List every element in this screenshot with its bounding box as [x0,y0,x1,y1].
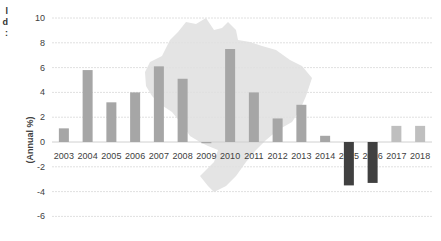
bar-2005 [106,102,116,142]
bar-chart: 1086420-2-4-6 20032004200520062007200820… [0,0,441,241]
bar-2008 [178,79,188,142]
y-tick-label: 4 [40,87,45,97]
y-tick-label: -4 [37,187,45,197]
bar-2006 [130,92,140,142]
x-tick-label: 2010 [220,151,240,161]
bar-2007 [154,66,164,142]
bar-2010 [225,49,235,142]
bar-2018 [415,126,425,142]
bar-2009 [201,142,211,143]
x-tick-label: 2006 [125,151,145,161]
x-tick-label: 2011 [244,151,263,161]
bar-2003 [59,128,69,142]
y-tick-label: 0 [40,137,45,147]
x-tick-label: 2012 [268,151,288,161]
x-tick-label: 2018 [410,151,430,161]
x-tick-label: 2017 [386,151,406,161]
bar-2011 [249,92,259,142]
bar-2016 [368,142,378,183]
y-axis-ticks: 1086420-2-4-6 [35,13,45,221]
x-tick-label: 2004 [78,151,98,161]
bar-2015 [344,142,354,185]
bar-2004 [83,70,93,142]
bar-2014 [320,136,330,142]
y-tick-label: 6 [40,63,45,73]
bar-2017 [391,126,401,142]
x-tick-label: 2007 [149,151,169,161]
y-tick-label: 10 [35,13,45,23]
y-tick-label: 8 [40,38,45,48]
bar-2012 [273,118,283,142]
x-tick-label: 2009 [196,151,216,161]
x-tick-label: 2008 [173,151,193,161]
y-axis-label: (Annual %) [25,117,35,164]
y-tick-label: -2 [37,162,45,172]
y-tick-label: -6 [37,211,45,221]
y-tick-label: 2 [40,112,45,122]
x-tick-label: 2015 [339,151,359,161]
bar-2013 [296,105,306,142]
x-tick-label: 2016 [363,151,383,161]
x-tick-label: 2014 [315,151,335,161]
x-tick-label: 2005 [101,151,121,161]
x-tick-label: 2013 [291,151,311,161]
x-tick-label: 2003 [54,151,74,161]
